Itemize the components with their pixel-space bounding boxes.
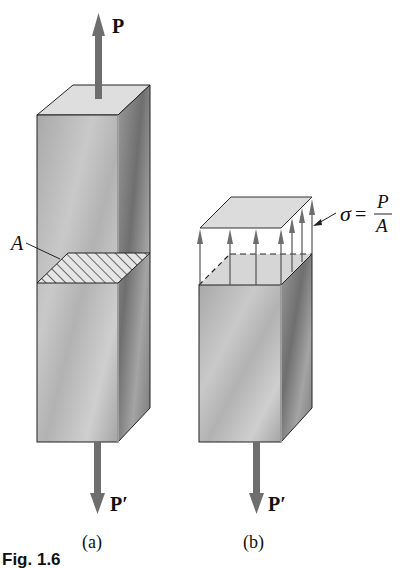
force-label-P-prime-a: P′ <box>110 493 128 515</box>
stress-denominator: A <box>374 215 388 236</box>
force-label-P: P <box>112 15 124 37</box>
figure-caption: Fig. 1.6 <box>2 550 61 568</box>
stress-symbol: σ <box>340 201 352 226</box>
bar-b-side-face <box>281 254 312 442</box>
panel-b <box>197 197 336 514</box>
stress-equals: = <box>355 203 366 225</box>
area-label-A: A <box>9 232 24 254</box>
stress-plate <box>200 197 312 228</box>
stress-numerator: P <box>376 191 389 212</box>
panel-a <box>26 13 150 514</box>
force-arrow-P-prime-down-b <box>249 442 264 514</box>
force-label-P-prime-b: P′ <box>268 493 286 515</box>
stress-formula: σ = P A <box>340 191 392 236</box>
bar-b-front-face <box>199 285 281 442</box>
panel-label-a: (a) <box>82 532 102 553</box>
force-arrow-P-prime-down-a <box>90 442 105 514</box>
bar-a <box>37 85 150 442</box>
panel-label-b: (b) <box>243 532 264 553</box>
axial-stress-figure: P A P′ (a) P′ (b) σ = P A <box>0 0 402 568</box>
